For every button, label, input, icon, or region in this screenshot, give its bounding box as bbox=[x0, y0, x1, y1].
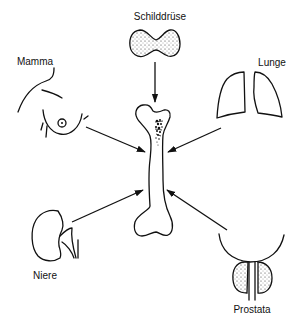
femur-icon bbox=[134, 105, 172, 236]
bone-group bbox=[134, 105, 172, 236]
kidney-icon bbox=[32, 210, 78, 260]
prostate-group: Prostata bbox=[167, 190, 284, 315]
thyroid-icon bbox=[130, 30, 180, 57]
breast-icon bbox=[18, 68, 88, 137]
prostate-icon bbox=[219, 234, 284, 300]
lungs-icon bbox=[217, 72, 282, 118]
arrow-kidney bbox=[72, 190, 143, 222]
arrow-lung bbox=[168, 128, 221, 152]
arrow-breast bbox=[86, 127, 145, 152]
kidney-label: Niere bbox=[33, 270, 57, 281]
breast-group: Mamma bbox=[17, 56, 145, 152]
lung-label: Lunge bbox=[258, 57, 286, 68]
arrow-prostate bbox=[167, 190, 227, 230]
thyroid-group: Schilddrüse bbox=[130, 11, 187, 102]
metastasis-diagram: Schilddrüse Mamma L bbox=[0, 0, 297, 326]
thyroid-label: Schilddrüse bbox=[134, 11, 187, 22]
prostate-label: Prostata bbox=[233, 304, 271, 315]
kidney-group: Niere bbox=[32, 190, 143, 281]
lung-group: Lunge bbox=[168, 57, 286, 152]
breast-label: Mamma bbox=[17, 56, 54, 67]
